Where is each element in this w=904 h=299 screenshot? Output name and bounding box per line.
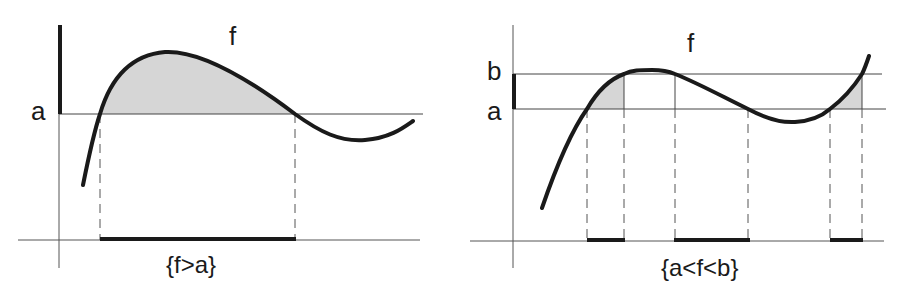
- superlevel-set-diagrams: f a {f>a} f b: [0, 0, 904, 299]
- shaded-region-f-above-a: [100, 52, 295, 114]
- set-label: {a<f<b}: [661, 254, 738, 281]
- right-panel: f b a {a<f<b}: [470, 25, 886, 281]
- set-label: {f>a}: [166, 251, 216, 278]
- level-label-b: b: [487, 56, 501, 86]
- left-panel: f a {f>a}: [18, 21, 423, 278]
- level-label-a: a: [487, 96, 502, 126]
- level-label-a: a: [31, 96, 46, 126]
- function-curve-f: [542, 56, 869, 208]
- function-label: f: [687, 28, 695, 58]
- function-label: f: [229, 21, 237, 51]
